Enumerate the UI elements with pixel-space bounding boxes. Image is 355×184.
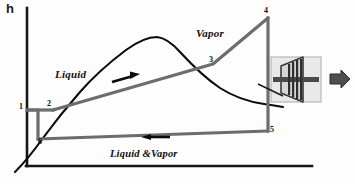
state-point-label-1: 1 [19, 103, 23, 111]
state-point-label-6: 6 [38, 138, 42, 146]
flow-arrow-forward [112, 72, 140, 83]
region-label-liquid-vapor: Liquid &Vapor [110, 148, 178, 159]
region-label-vapor: Vapor [196, 27, 224, 39]
enthalpy-axis-label: h [6, 2, 14, 15]
state-point-label-4: 4 [264, 7, 268, 15]
process-6-1 [28, 110, 38, 139]
region-label-liquid: Liquid [55, 68, 86, 80]
work-output-arrow [330, 70, 350, 88]
rankine-cycle-diagram: h Liquid Vapor Liquid &Vapor 1 2 3 4 5 6 [0, 0, 355, 184]
state-point-label-5: 5 [270, 126, 274, 134]
state-point-label-2: 2 [47, 100, 51, 108]
state-point-label-3: 3 [209, 56, 213, 64]
